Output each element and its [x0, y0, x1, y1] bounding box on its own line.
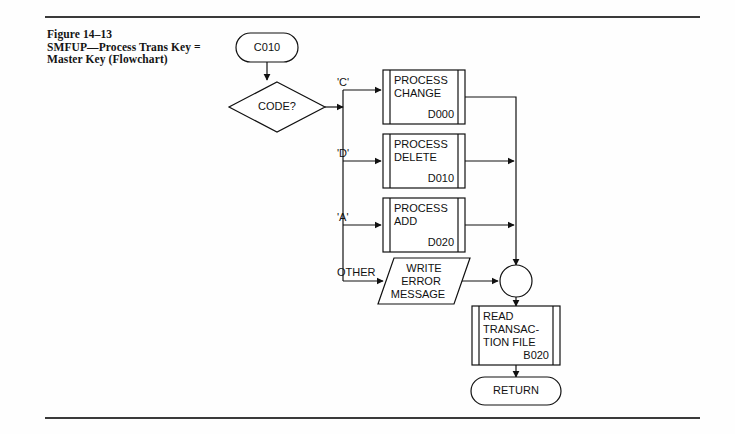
branch-label-a: 'A': [337, 211, 349, 223]
read-transaction-line-3: TION FILE: [483, 336, 553, 349]
start-terminal-label: C010: [236, 41, 298, 54]
process-delete-title-line-1: PROCESS: [394, 138, 456, 151]
branch-label-d: 'D': [337, 147, 349, 159]
write-error-message-line-1: WRITE: [386, 262, 462, 275]
process-add-title-line-1: PROCESS: [394, 202, 456, 215]
branch-label-c: 'C': [337, 76, 349, 88]
end-terminal-label: RETURN: [471, 384, 561, 397]
figure-page: Figure 14–13 SMFUP—Process Trans Key = M…: [0, 0, 735, 434]
branch-label-other: OTHER: [337, 266, 376, 278]
decision-label: CODE?: [229, 100, 325, 113]
read-transaction-line-1: READ: [483, 310, 553, 323]
process-change-title-line-1: PROCESS: [394, 74, 456, 87]
process-add-title-line-2: ADD: [394, 215, 456, 228]
read-transaction-line-2: TRANSAC-: [483, 323, 553, 336]
write-error-message-line-2: ERROR: [383, 275, 459, 288]
process-delete-title-line-2: DELETE: [394, 151, 456, 164]
merge-connector-shape: [500, 265, 532, 297]
write-error-message-line-3: MESSAGE: [380, 288, 456, 301]
process-change-title-line-2: CHANGE: [394, 87, 456, 100]
process-change-ref: D000: [394, 108, 454, 121]
edge-change-to-merge: [465, 97, 516, 265]
flowchart-diagram: [0, 0, 735, 434]
process-delete-ref: D010: [394, 172, 454, 185]
read-transaction-ref: B020: [483, 349, 549, 362]
process-add-ref: D020: [394, 236, 454, 249]
